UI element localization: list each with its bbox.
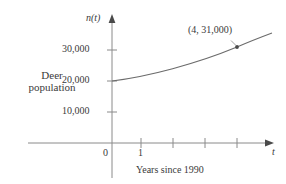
x-tick-label-0: 0 [103, 147, 108, 158]
y-axis-arrowhead [109, 14, 116, 23]
y-axis-title-line1: Deer [14, 69, 90, 81]
deer-population-chart: n(t) t 30,000 20,000 10,000 0 1 (4, 31,0… [0, 0, 286, 184]
annotation-leader-line [231, 41, 236, 46]
y-axis-title-line2: population [14, 81, 90, 93]
x-tick-label-1: 1 [138, 147, 143, 158]
y-tick-label-10000: 10,000 [62, 105, 90, 116]
population-curve [112, 33, 272, 81]
y-axis-variable-label: n(t) [86, 12, 100, 23]
x-axis-caption: Years since 1990 [136, 164, 204, 175]
data-point-annotation: (4, 31,000) [188, 24, 232, 35]
y-axis-title: Deer population [14, 69, 90, 94]
x-axis-variable-label: t [272, 146, 275, 157]
y-tick-label-30000: 30,000 [62, 43, 90, 54]
